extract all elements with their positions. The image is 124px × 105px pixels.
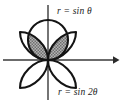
polar-curve-figure: r = sin θ r = sin 2θ [0, 0, 124, 105]
curve-label-rose: r = sin 2θ [58, 88, 98, 98]
rose-petal-lower-right [48, 60, 76, 88]
curve-label-circle: r = sin θ [57, 7, 92, 17]
x-axis-arrowhead [113, 56, 120, 64]
rose-petal-lower-left [20, 60, 48, 88]
